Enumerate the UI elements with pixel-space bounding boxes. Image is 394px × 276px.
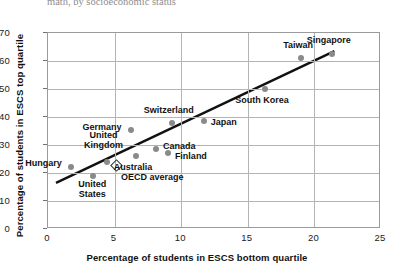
- x-tick-label: 10: [165, 232, 195, 243]
- y-tick-label: 60: [0, 55, 10, 66]
- data-point-label: Singapore: [269, 35, 389, 46]
- y-tick-mark: [43, 228, 47, 229]
- y-tick-label: 10: [0, 195, 10, 206]
- x-axis-title: Percentage of students in ESCS bottom qu…: [0, 252, 394, 263]
- y-tick-label: 70: [0, 27, 10, 38]
- data-point-label: Germany: [83, 122, 122, 133]
- data-point[interactable]: [201, 118, 207, 124]
- gridline-vertical: [181, 33, 182, 227]
- data-point-label: Australia: [73, 162, 193, 173]
- y-tick-mark: [43, 116, 47, 117]
- gridline-horizontal: [48, 201, 379, 202]
- data-point-label: South Korea: [202, 95, 322, 106]
- x-tick-label: 25: [365, 232, 394, 243]
- y-tick-mark: [43, 88, 47, 89]
- gridline-horizontal: [48, 61, 379, 62]
- data-point-label: Japan: [211, 117, 237, 128]
- data-point-label: United Kingdom: [44, 130, 164, 151]
- y-tick-label: 0: [0, 223, 10, 234]
- data-point-label: OECD average: [121, 172, 184, 183]
- y-axis-title: Percentage of students in ESCS top quart…: [14, 31, 25, 241]
- chart-figure: math, by socioeconomic status 0102030405…: [0, 0, 394, 276]
- data-point-label: Switzerland: [109, 105, 229, 116]
- y-tick-mark: [43, 60, 47, 61]
- data-point[interactable]: [169, 120, 175, 126]
- data-point[interactable]: [329, 51, 335, 57]
- y-tick-label: 20: [0, 167, 10, 178]
- x-tick-label: 15: [232, 232, 262, 243]
- x-tick-label: 20: [298, 232, 328, 243]
- gridline-vertical: [314, 33, 315, 227]
- y-tick-label: 40: [0, 111, 10, 122]
- y-tick-mark: [43, 32, 47, 33]
- y-tick-label: 50: [0, 83, 10, 94]
- y-tick-mark: [43, 200, 47, 201]
- x-tick-label: 0: [32, 232, 62, 243]
- clipped-chart-title: math, by socioeconomic status: [47, 0, 347, 8]
- gridline-vertical: [248, 33, 249, 227]
- data-point-label: Canada: [163, 141, 196, 152]
- x-tick-label: 5: [99, 232, 129, 243]
- gridline-horizontal: [48, 173, 379, 174]
- data-point-label: Hungary: [25, 158, 62, 169]
- y-tick-label: 30: [0, 139, 10, 150]
- gridline-horizontal: [48, 89, 379, 90]
- y-tick-mark: [43, 172, 47, 173]
- data-point-label: Finland: [175, 151, 207, 162]
